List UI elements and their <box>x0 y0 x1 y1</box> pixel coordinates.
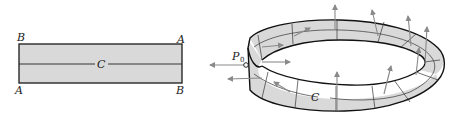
mobius-figure: C B A A B <box>0 0 458 116</box>
point-subscript: 0 <box>240 56 244 64</box>
corner-label-bottom-right: B <box>175 84 184 97</box>
corner-label-bottom-left: A <box>14 84 23 97</box>
mobius-strip: P 0 C <box>210 5 444 111</box>
corner-label-top-right: A <box>176 33 185 46</box>
corner-label-top-left: B <box>16 31 25 44</box>
point-label: P <box>231 50 240 63</box>
flat-strip: C B A A B <box>14 31 185 97</box>
band-back <box>250 20 443 74</box>
inner-edge <box>262 40 425 85</box>
curve-label: C <box>311 91 320 104</box>
center-line-label: C <box>97 58 106 71</box>
normal-arrow <box>384 66 391 94</box>
